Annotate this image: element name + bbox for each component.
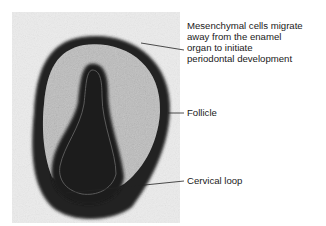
tooth-bud-micrograph	[12, 12, 180, 223]
label-follicle: Follicle	[187, 107, 217, 118]
label-cervical-loop: Cervical loop	[187, 175, 242, 186]
label-mesenchymal-cells: Mesenchymal cells migrate away from the …	[187, 20, 303, 64]
